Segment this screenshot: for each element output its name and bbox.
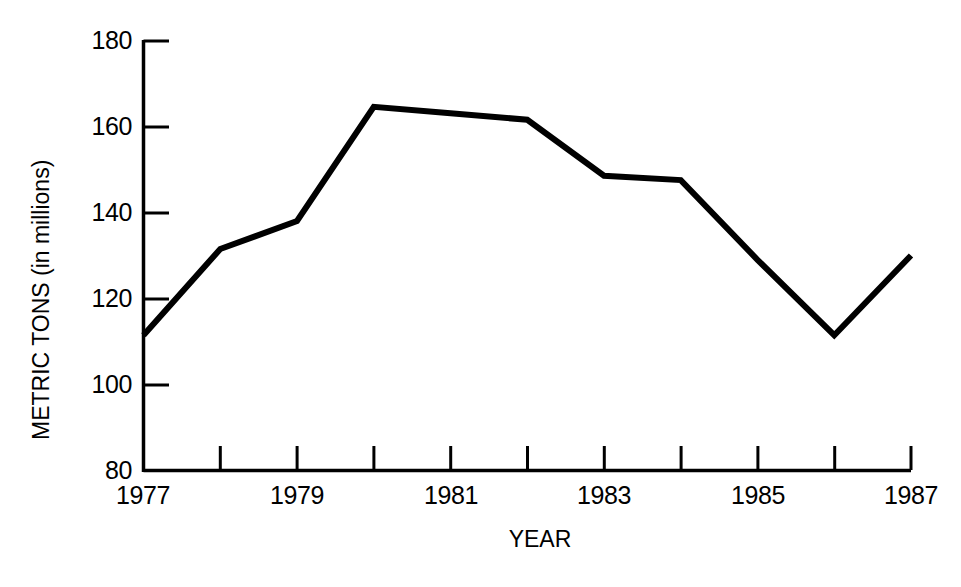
- x-axis-title: YEAR: [440, 528, 640, 551]
- x-tick-label-1979: 1979: [247, 483, 347, 508]
- data-series-line: [144, 107, 912, 335]
- y-tick-label-160: 160: [58, 114, 132, 139]
- y-tick-label-140: 140: [58, 200, 132, 225]
- x-axis-ticks: [144, 446, 912, 470]
- x-tick-label-1977: 1977: [93, 483, 193, 508]
- y-tick-label-100: 100: [58, 372, 132, 397]
- y-tick-label-120: 120: [58, 286, 132, 311]
- y-tick-label-80: 80: [58, 458, 132, 483]
- x-tick-label-1987: 1987: [861, 483, 961, 508]
- y-axis-title: METRIC TONS (in millions): [30, 160, 53, 440]
- y-tick-label-180: 180: [58, 28, 132, 53]
- x-tick-label-1981: 1981: [401, 483, 501, 508]
- x-tick-label-1983: 1983: [554, 483, 654, 508]
- x-tick-label-1985: 1985: [708, 483, 808, 508]
- line-chart: 180 160 140 120 100 80 1977 1979 1981 19…: [0, 0, 961, 587]
